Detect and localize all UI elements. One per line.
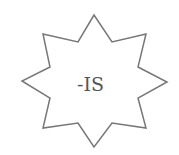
star-label: -IS bbox=[0, 73, 179, 95]
